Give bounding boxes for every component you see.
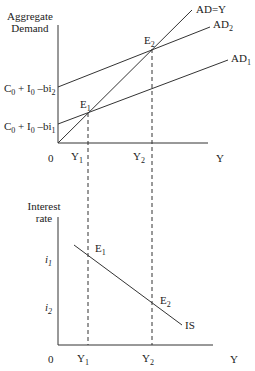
bottom-e2-label: E2	[160, 294, 171, 309]
bottom-panel: Interest rate IS E1 E2 i1 i2 0 Y1 Y2 Y	[28, 200, 238, 367]
bottom-origin-label: 0	[48, 353, 54, 365]
top-y-axis-label-2: Demand	[11, 22, 49, 34]
top-panel: Aggregate Demand AD=Y AD2 AD1 E2 E1 C0 +…	[4, 3, 251, 165]
top-y2-tick: Y2	[133, 150, 145, 165]
intercept-high-label: C0 + I0 –bi2	[4, 82, 56, 97]
top-e2-label: E2	[144, 34, 155, 49]
top-e1-label: E1	[80, 98, 91, 113]
bottom-y-axis-label-1: Interest	[28, 200, 61, 212]
ad1-line	[58, 60, 228, 124]
top-y-axis-label-1: Aggregate	[7, 10, 53, 22]
ad-equals-y-line	[58, 10, 192, 143]
bottom-e1-label: E1	[95, 242, 106, 257]
i1-label: i1	[45, 253, 52, 268]
ad-y-label: AD=Y	[196, 3, 226, 15]
ad2-line	[58, 27, 210, 87]
bottom-x-axis-label: Y	[230, 353, 238, 365]
top-origin-label: 0	[48, 152, 54, 164]
intercept-low-label: C0 + I0 –bi1	[4, 120, 56, 135]
i2-label: i2	[45, 301, 52, 316]
bottom-y2-tick: Y2	[142, 352, 154, 367]
is-curve	[74, 245, 182, 325]
ad2-label: AD2	[213, 18, 233, 33]
ad-is-diagram: Aggregate Demand AD=Y AD2 AD1 E2 E1 C0 +…	[0, 0, 255, 371]
ad1-label: AD1	[231, 52, 251, 67]
is-label: IS	[185, 319, 195, 331]
bottom-y-axis-label-2: rate	[36, 212, 53, 224]
top-x-axis-label: Y	[216, 152, 224, 164]
bottom-y1-tick: Y1	[77, 352, 89, 367]
top-y1-tick: Y1	[71, 150, 83, 165]
